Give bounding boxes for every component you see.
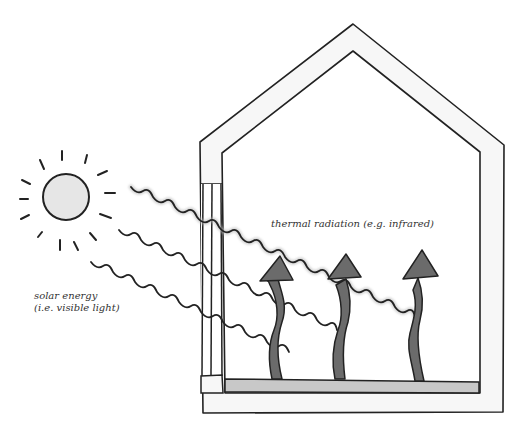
- sun-icon: [20, 151, 115, 250]
- greenhouse-diagram: solar energy (i.e. visible light) therma…: [0, 0, 526, 431]
- floor: [225, 379, 479, 393]
- window: [201, 184, 223, 393]
- solar-energy-label-line1: solar energy: [34, 290, 120, 302]
- solar-energy-label-line2: (i.e. visible light): [34, 302, 120, 314]
- thermal-radiation-label: thermal radiation (e.g. infrared): [271, 218, 434, 230]
- diagram-canvas: [0, 0, 526, 431]
- solar-energy-label: solar energy (i.e. visible light): [34, 290, 120, 314]
